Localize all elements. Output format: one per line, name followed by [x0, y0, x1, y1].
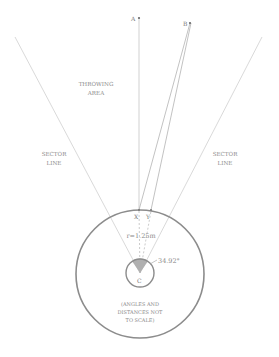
line-y-to-b — [151, 23, 191, 210]
radius-label: r=1.25m — [126, 232, 155, 240]
note-label-2: DISTANCES NOT — [118, 309, 163, 315]
left-sector-line — [15, 37, 140, 273]
sector-left-label-2: LINE — [47, 160, 62, 166]
line-x-to-b — [139, 23, 190, 210]
sector-right-label-2: LINE — [218, 160, 233, 166]
point-c-label: C — [137, 277, 142, 284]
note-label-3: TO SCALE) — [126, 317, 155, 323]
note-label-1: (ANGLES AND — [121, 301, 159, 307]
throwing-area-label-1: THROWING — [79, 81, 114, 87]
point-b-label: B — [183, 20, 188, 27]
throwing-area-label-2: AREA — [87, 90, 105, 96]
sector-left-label-1: SECTOR — [42, 151, 68, 157]
angle-pointer — [150, 260, 157, 264]
sector-right-label-1: SECTOR — [213, 151, 239, 157]
angle-label: 34.92° — [158, 257, 180, 265]
right-sector-line — [140, 37, 262, 273]
point-x-label: X — [134, 213, 139, 220]
point-x-marker — [138, 209, 140, 211]
point-b-marker — [189, 22, 191, 24]
point-a-marker — [138, 17, 140, 19]
point-a-label: A — [130, 15, 136, 22]
throwing-sector-diagram: A B X Y C THROWING AREA SECTOR LINE SECT… — [0, 0, 279, 357]
point-y-marker — [150, 209, 152, 211]
